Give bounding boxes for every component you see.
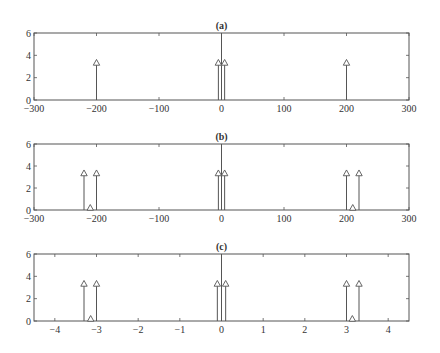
y-tick-label: 2: [26, 72, 31, 83]
x-tick-label: −100: [149, 103, 170, 114]
x-tick-label: 3: [344, 324, 349, 335]
x-tick-label: 300: [402, 213, 417, 224]
figure: (a)−300−200−10001002003000246(b)−300−200…: [0, 0, 440, 353]
stem-marker: [93, 59, 99, 65]
x-tick-label: −200: [86, 103, 107, 114]
x-tick-label: 1: [261, 324, 266, 335]
stem-marker: [87, 205, 93, 211]
stem-marker: [349, 316, 355, 322]
subplot-c: (c)−4−3−2−1012340246: [26, 241, 409, 335]
stem-marker: [221, 170, 227, 176]
stem-marker: [221, 59, 227, 65]
x-tick-label: 2: [302, 324, 307, 335]
stem-marker: [356, 280, 362, 286]
stem-marker: [93, 280, 99, 286]
x-tick-label: 300: [402, 103, 417, 114]
stem-marker: [81, 280, 87, 286]
x-tick-label: −1: [175, 324, 186, 335]
y-tick-label: 4: [26, 50, 31, 61]
x-tick-label: 100: [277, 103, 292, 114]
subplot-a: (a)−300−200−10001002003000246: [24, 20, 417, 114]
x-tick-label: 100: [277, 213, 292, 224]
y-tick-label: 6: [26, 28, 31, 39]
y-tick-label: 0: [26, 95, 31, 106]
y-tick-label: 2: [26, 183, 31, 194]
stem-marker: [356, 170, 362, 176]
x-tick-label: −3: [91, 324, 102, 335]
y-tick-label: 4: [26, 161, 31, 172]
stem-marker: [87, 316, 93, 322]
y-tick-label: 6: [26, 249, 31, 260]
x-tick-label: 0: [219, 324, 224, 335]
stem-marker: [215, 59, 221, 65]
x-tick-label: 200: [339, 103, 354, 114]
stem-marker: [343, 170, 349, 176]
stem-marker: [343, 280, 349, 286]
subplot-b: (b)−300−200−10001002003000246: [24, 131, 417, 224]
y-tick-label: 0: [26, 316, 31, 327]
subplot-title: (c): [216, 241, 227, 253]
stem-marker: [343, 59, 349, 65]
x-tick-label: −100: [149, 213, 170, 224]
stem-marker: [350, 205, 356, 211]
x-tick-label: −2: [133, 324, 144, 335]
subplot-title: (a): [216, 20, 228, 32]
stem-marker: [215, 170, 221, 176]
x-tick-label: −200: [86, 213, 107, 224]
y-tick-label: 6: [26, 139, 31, 150]
stem-marker: [222, 280, 228, 286]
y-tick-label: 4: [26, 271, 31, 282]
stem-marker: [81, 170, 87, 176]
x-tick-label: 4: [386, 324, 391, 335]
x-tick-label: −4: [50, 324, 61, 335]
y-tick-label: 2: [26, 293, 31, 304]
subplot-title: (b): [215, 131, 227, 143]
x-tick-label: 0: [219, 103, 224, 114]
stem-marker: [93, 170, 99, 176]
y-tick-label: 0: [26, 205, 31, 216]
x-tick-label: 0: [219, 213, 224, 224]
stem-marker: [214, 280, 220, 286]
x-tick-label: 200: [339, 213, 354, 224]
